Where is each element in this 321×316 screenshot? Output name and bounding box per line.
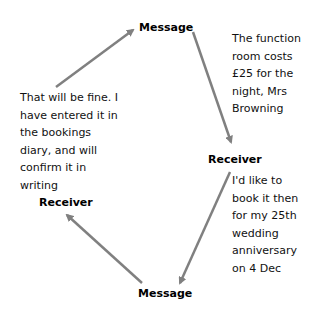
arrow-bottom-to-left [67, 215, 142, 283]
node-receiver-right: Receiver [208, 153, 262, 166]
message-text-bottom-right: I'd like to book it then for my 25th wed… [232, 172, 312, 277]
arrow-left-to-top [56, 30, 133, 87]
arrow-top-to-right [193, 32, 231, 142]
message-text-left: That will be fine. I have entered it in … [20, 89, 120, 194]
node-message-bottom: Message [138, 287, 192, 300]
node-receiver-left: Receiver [39, 196, 93, 209]
message-text-top-right: The function room costs £25 for the nigh… [232, 30, 314, 118]
node-message-top: Message [139, 21, 193, 34]
arrow-right-to-bottom [180, 172, 230, 283]
